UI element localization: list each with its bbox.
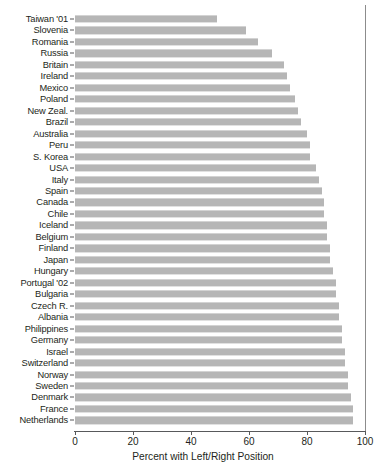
right-axis-spine: [365, 5, 366, 432]
bar-category-label: Iceland: [0, 220, 68, 230]
bar-category-label: Israel: [0, 347, 68, 357]
bar-row: Albania: [0, 311, 376, 322]
bar-category-label: Poland: [0, 94, 68, 104]
bar-category-label: Philippines: [0, 324, 68, 334]
y-axis-tick: [70, 179, 74, 180]
bar-row: Poland: [0, 93, 376, 104]
bar: [75, 119, 301, 126]
bar-row: Switzerland: [0, 357, 376, 368]
bar-category-label: Germany: [0, 335, 68, 345]
bar: [75, 84, 290, 91]
y-axis-tick: [70, 30, 74, 31]
bar-row: Brazil: [0, 116, 376, 127]
y-axis-tick: [70, 145, 74, 146]
bar-category-label: Czech R.: [0, 301, 68, 311]
y-axis-tick: [70, 340, 74, 341]
x-axis-title: Percent with Left/Right Position: [0, 450, 376, 463]
bar-category-label: Ireland: [0, 71, 68, 81]
bar: [75, 130, 307, 137]
bar-row: S. Korea: [0, 151, 376, 162]
bar-category-label: Netherlands: [0, 415, 68, 425]
x-axis-tick: [75, 431, 76, 435]
bar: [75, 256, 330, 263]
bar: [75, 164, 316, 171]
bar: [75, 27, 246, 34]
bar-row: Mexico: [0, 82, 376, 93]
bar: [75, 325, 342, 332]
bar-category-label: Peru: [0, 140, 68, 150]
bar-row: Canada: [0, 197, 376, 208]
bar: [75, 245, 330, 252]
bar-category-label: Denmark: [0, 392, 68, 402]
bar-row: Peru: [0, 139, 376, 150]
y-axis-tick: [70, 76, 74, 77]
bar-category-label: Hungary: [0, 266, 68, 276]
bar: [75, 153, 310, 160]
bar-row: Portugal '02: [0, 277, 376, 288]
y-axis-tick: [70, 133, 74, 134]
bar: [75, 210, 324, 217]
bar: [75, 222, 327, 229]
bar-row: Netherlands: [0, 415, 376, 426]
bar: [75, 176, 319, 183]
bar-category-label: S. Korea: [0, 152, 68, 162]
y-axis-tick: [70, 236, 74, 237]
x-axis-tick-label: 60: [243, 436, 254, 448]
bar: [75, 50, 272, 57]
bar: [75, 38, 258, 45]
bar-row: Ireland: [0, 71, 376, 82]
bar-row: USA: [0, 162, 376, 173]
bar-category-label: Australia: [0, 129, 68, 139]
y-axis-tick: [70, 305, 74, 306]
bar-row: Romania: [0, 36, 376, 47]
bar-row: Philippines: [0, 323, 376, 334]
y-axis-tick: [70, 225, 74, 226]
bar-category-label: Bulgaria: [0, 289, 68, 299]
y-axis-tick: [70, 374, 74, 375]
bar: [75, 268, 333, 275]
x-axis-tick-label: 40: [185, 436, 196, 448]
bar: [75, 233, 327, 240]
bar-category-label: Japan: [0, 255, 68, 265]
bar-category-label: Russia: [0, 48, 68, 58]
y-axis-tick: [70, 18, 74, 19]
bar-row: Germany: [0, 334, 376, 345]
bar-category-label: Finland: [0, 243, 68, 253]
bar-category-label: Portugal '02: [0, 278, 68, 288]
y-axis-tick: [70, 397, 74, 398]
horizontal-bar-chart: Taiwan '01SloveniaRomaniaRussiaBritainIr…: [0, 0, 376, 472]
y-axis-tick: [70, 64, 74, 65]
x-axis-line: [74, 431, 366, 432]
bar: [75, 337, 342, 344]
x-axis-tick: [249, 431, 250, 435]
bar-category-label: Italy: [0, 175, 68, 185]
y-axis-tick: [70, 41, 74, 42]
bar: [75, 61, 284, 68]
bar-row: Taiwan '01: [0, 13, 376, 24]
bar-category-label: Slovenia: [0, 25, 68, 35]
bar-category-label: Albania: [0, 312, 68, 322]
bar-category-label: Taiwan '01: [0, 14, 68, 24]
x-axis-tick-label: 100: [357, 436, 374, 448]
y-axis-tick: [70, 282, 74, 283]
y-axis-tick: [70, 351, 74, 352]
bar-row: Japan: [0, 254, 376, 265]
bar-row: Italy: [0, 174, 376, 185]
x-axis-tick: [133, 431, 134, 435]
y-axis-tick: [70, 328, 74, 329]
y-axis-tick: [70, 213, 74, 214]
bar-row: Britain: [0, 59, 376, 70]
y-axis-tick: [70, 420, 74, 421]
bar: [75, 394, 351, 401]
bar-row: France: [0, 403, 376, 414]
y-axis-tick: [70, 317, 74, 318]
bar-row: Bulgaria: [0, 288, 376, 299]
bar: [75, 279, 336, 286]
bar: [75, 314, 339, 321]
y-axis-tick: [70, 271, 74, 272]
y-axis-tick: [70, 294, 74, 295]
bar-category-label: Mexico: [0, 83, 68, 93]
y-axis-tick: [70, 190, 74, 191]
bar-category-label: Spain: [0, 186, 68, 196]
bar-row: Israel: [0, 346, 376, 357]
